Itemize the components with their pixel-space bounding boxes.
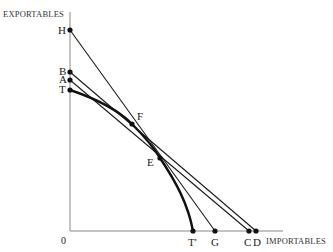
label-T: T — [59, 83, 66, 95]
line-B-D — [70, 72, 256, 231]
point-H — [67, 27, 72, 32]
point-A — [67, 77, 72, 82]
trade-diagram: EXPORTABLES IMPORTABLES 0 H B A T F E T'… — [0, 0, 333, 252]
label-H: H — [58, 24, 66, 36]
label-E: E — [147, 156, 154, 168]
point-B — [67, 69, 72, 74]
label-T-prime: T' — [188, 236, 197, 248]
label-G: G — [211, 236, 219, 248]
point-T — [67, 87, 72, 92]
point-C — [246, 228, 251, 233]
y-axis-label: EXPORTABLES — [3, 9, 64, 19]
point-E — [157, 155, 162, 160]
x-axis-label: IMPORTABLES — [266, 236, 326, 246]
point-T-prime — [190, 228, 195, 233]
transformation-curve — [70, 90, 193, 231]
origin-label: 0 — [61, 235, 66, 246]
point-D — [253, 228, 258, 233]
point-markers — [67, 27, 258, 233]
line-H-G — [70, 30, 215, 231]
point-G — [212, 228, 217, 233]
label-D: D — [253, 236, 261, 248]
label-C: C — [244, 236, 251, 248]
point-F — [129, 121, 134, 126]
label-F: F — [137, 110, 143, 122]
